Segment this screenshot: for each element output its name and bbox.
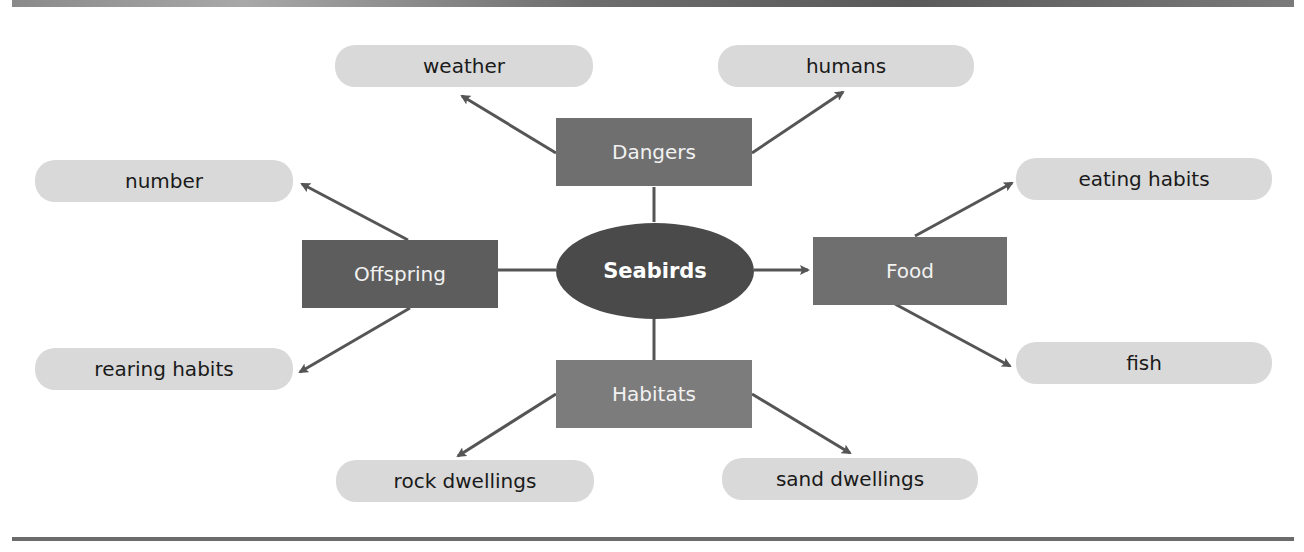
leaf-node-humans: humans: [718, 45, 974, 87]
leaf-node-eating-habits: eating habits: [1016, 158, 1272, 200]
leaf-node-number: number: [35, 160, 293, 202]
leaf-label: sand dwellings: [776, 467, 924, 491]
leaf-node-rearing-habits: rearing habits: [35, 348, 293, 390]
category-label: Food: [886, 259, 934, 283]
leaf-node-sand-dwellings: sand dwellings: [722, 458, 978, 500]
arrow-offspring-rearing-habits: [300, 308, 410, 372]
leaf-node-rock-dwellings: rock dwellings: [336, 460, 594, 502]
arrow-food-fish: [895, 304, 1010, 366]
leaf-label: rearing habits: [94, 357, 233, 381]
leaf-label: eating habits: [1078, 167, 1209, 191]
category-node-food: Food: [813, 237, 1007, 305]
leaf-label: humans: [806, 54, 886, 78]
category-node-habitats: Habitats: [556, 360, 752, 428]
arrow-habitats-rock-dwellings: [458, 394, 556, 456]
category-node-offspring: Offspring: [302, 240, 498, 308]
arrow-dangers-humans: [752, 92, 843, 153]
leaf-label: number: [125, 169, 203, 193]
leaf-node-weather: weather: [335, 45, 593, 87]
arrow-offspring-number: [302, 184, 408, 240]
bottom-divider: [12, 537, 1294, 541]
leaf-label: rock dwellings: [394, 469, 537, 493]
category-label: Offspring: [354, 262, 446, 286]
leaf-node-fish: fish: [1016, 342, 1272, 384]
category-label: Dangers: [612, 140, 696, 164]
arrow-habitats-sand-dwellings: [752, 394, 850, 453]
category-label: Habitats: [612, 382, 696, 406]
leaf-label: fish: [1126, 351, 1162, 375]
center-node-seabirds: Seabirds: [556, 223, 754, 319]
arrow-food-eating-habits: [915, 183, 1012, 236]
arrow-dangers-weather: [462, 96, 556, 153]
center-label: Seabirds: [603, 259, 707, 283]
leaf-label: weather: [423, 54, 505, 78]
category-node-dangers: Dangers: [556, 118, 752, 186]
